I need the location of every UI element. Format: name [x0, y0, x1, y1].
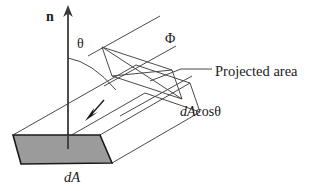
area-element-patch	[13, 135, 112, 164]
normal-vector-arrow	[63, 5, 73, 147]
flux-line-2	[104, 46, 176, 86]
projected-area-value-label: dAcosθ	[180, 105, 221, 119]
flux-label: Φ	[165, 32, 175, 46]
projected-area-value-prefix: dA	[180, 104, 196, 119]
area-element-label: dA	[64, 170, 80, 185]
projected-area-edge-top	[102, 47, 172, 70]
flux-line-1	[88, 16, 160, 56]
projected-area-label: Projected area	[215, 64, 298, 79]
figure-canvas: n θ Φ Projected area dAcosθ dA	[0, 0, 314, 191]
projected-area-edge-left	[102, 47, 112, 76]
flux-diagram-svg	[0, 0, 314, 191]
angle-label: θ	[77, 37, 84, 51]
projected-area-value-angle: θ	[214, 104, 221, 119]
projected-area-value-cos: cos	[196, 104, 215, 119]
normal-vector-label: n	[46, 10, 54, 24]
tube-edge-top-right	[100, 83, 190, 135]
angle-arc	[68, 58, 116, 90]
tube-edge-bottom-right	[112, 112, 200, 163]
